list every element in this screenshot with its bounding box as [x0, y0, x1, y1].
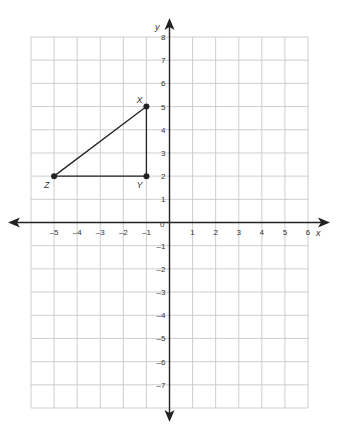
y-tick-label: –1: [157, 242, 166, 251]
tick-labels: –5–4–3–2–112345687654321–1–2–3–4–5–6–7: [50, 33, 311, 390]
y-tick-label: 1: [161, 195, 166, 204]
point-label-x: X: [135, 95, 143, 105]
x-tick-label: 1: [190, 228, 195, 237]
point-label-y: Y: [136, 180, 143, 190]
y-tick-label: –3: [157, 288, 166, 297]
y-tick-label: 8: [161, 33, 166, 42]
y-tick-label: –4: [157, 311, 166, 320]
x-tick-label: 6: [306, 228, 311, 237]
y-axis-label: y: [154, 22, 160, 32]
x-tick-label: –1: [142, 228, 151, 237]
x-tick-label: 4: [260, 228, 265, 237]
y-tick-label: –2: [157, 265, 166, 274]
x-tick-label: 3: [237, 228, 242, 237]
x-tick-label: –4: [73, 228, 82, 237]
y-tick-label: 3: [161, 149, 166, 158]
y-tick-label: –7: [157, 381, 166, 390]
x-tick-label: –3: [96, 228, 105, 237]
coordinate-plane: –5–4–3–2–112345687654321–1–2–3–4–5–6–7 X…: [0, 0, 342, 441]
y-tick-label: –6: [157, 358, 166, 367]
point-z: [51, 173, 57, 179]
origin-label: 0: [160, 220, 165, 229]
y-tick-label: 6: [161, 79, 166, 88]
x-tick-label: –5: [50, 228, 59, 237]
y-tick-label: 2: [161, 172, 166, 181]
point-y: [143, 173, 149, 179]
x-tick-label: –2: [119, 228, 128, 237]
point-x: [143, 104, 149, 110]
y-tick-label: 7: [161, 56, 166, 65]
x-tick-label: 2: [213, 228, 218, 237]
x-tick-label: 5: [283, 228, 288, 237]
x-axis-label: x: [315, 228, 321, 238]
y-tick-label: –5: [157, 334, 166, 343]
y-tick-label: 5: [161, 103, 166, 112]
point-label-z: Z: [43, 180, 50, 190]
y-tick-label: 4: [161, 126, 166, 135]
triangle-xyz: XYZ: [43, 95, 149, 191]
